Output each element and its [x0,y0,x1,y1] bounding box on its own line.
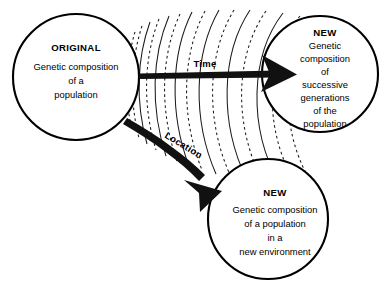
original-line-1: Genetic composition [34,61,119,72]
time-arrow-shaft [139,71,277,80]
new-location-line-3: in a [267,232,283,243]
new-time-line-3: of [321,66,329,77]
new-location-line-1: Genetic composition [233,204,318,215]
new-time-heading: NEW [313,27,337,38]
new-location-line-4: new environment [239,246,311,257]
new-time-line-6: of the [313,105,336,116]
new-location-heading: NEW [263,187,287,198]
generation-arc-11 [227,10,250,180]
original-heading: ORIGINAL [51,42,101,53]
generation-arc-10 [213,10,234,177]
diagram-canvas: ORIGINAL Genetic composition of a popula… [0,0,386,297]
original-line-3: population [54,89,97,100]
new-time-line-7: population [303,118,346,129]
original-line-2: of a [68,75,84,86]
generation-arc-4 [147,19,159,150]
generation-arc-3 [139,22,150,144]
new-time-line-4: successive [302,79,348,90]
time-arrow-label: Time [193,58,216,69]
generation-arc-12 [242,11,266,182]
new-time-line-2: composition [300,53,350,64]
new-location-line-2: of a population [244,218,306,229]
new-time-line-1: Genetic [309,40,342,51]
new-time-line-5: generations [301,92,350,103]
